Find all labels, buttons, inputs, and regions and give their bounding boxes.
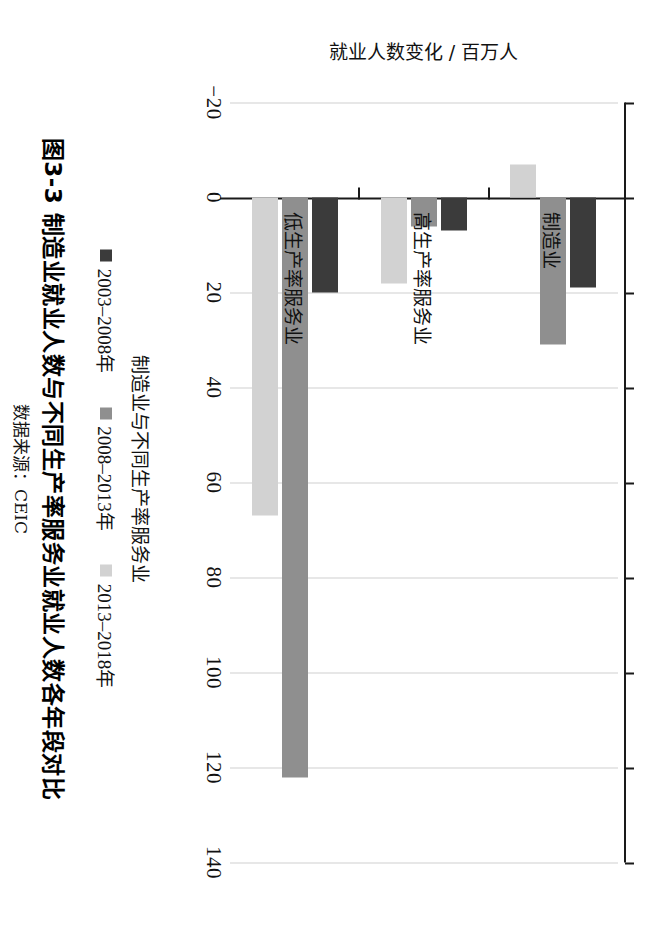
figure-source: 数据来源：CEIC	[10, 0, 35, 937]
category-tick	[358, 187, 360, 199]
value-tick-label: 120	[203, 732, 224, 802]
value-tick-label: 60	[203, 447, 224, 517]
legend: 2003–2008年2008–2013年2013–2018年	[93, 0, 120, 937]
value-axis-title: 就业人数变化 / 百万人	[230, 36, 618, 64]
category-label: 高生产率服务业	[410, 211, 437, 431]
legend-item[interactable]: 2003–2008年	[93, 249, 120, 373]
value-tick	[625, 292, 634, 294]
category-tick	[488, 187, 490, 199]
legend-item[interactable]: 2008–2013年	[93, 407, 120, 531]
figure-title: 图3-3 制造业就业人数与不同生产率服务业就业人数各年段对比	[38, 0, 72, 937]
bar	[252, 197, 278, 515]
gridline	[230, 862, 618, 863]
value-tick-label: −20	[203, 67, 224, 137]
category-label: 低生产率服务业	[281, 211, 308, 431]
value-tick-label: 0	[203, 162, 224, 232]
legend-label: 2003–2008年	[93, 268, 120, 373]
value-tick	[625, 767, 634, 769]
value-tick	[625, 387, 634, 389]
value-tick	[625, 102, 634, 104]
chart-figure: 就业人数变化 / 百万人 −20020406080100120140 制造业高生…	[0, 0, 660, 937]
legend-swatch-icon	[101, 564, 113, 576]
bar	[570, 197, 596, 287]
value-tick-label: 80	[203, 542, 224, 612]
value-tick-label: 100	[203, 637, 224, 707]
bar	[381, 197, 407, 283]
value-tick	[625, 672, 634, 674]
value-axis-title-text: 就业人数变化 / 百万人	[329, 37, 518, 64]
value-tick-label: 20	[203, 257, 224, 327]
value-tick	[625, 577, 634, 579]
value-tick-label: 40	[203, 352, 224, 422]
bar	[312, 197, 338, 292]
value-tick-label: 140	[203, 827, 224, 897]
gridline	[230, 102, 618, 103]
bar	[510, 164, 536, 197]
legend-label: 2008–2013年	[93, 426, 120, 531]
bar	[441, 197, 467, 230]
value-tick	[625, 862, 634, 864]
rotated-figure-wrapper: 就业人数变化 / 百万人 −20020406080100120140 制造业高生…	[0, 0, 660, 937]
category-axis-title: 制造业与不同生产率服务业	[128, 0, 155, 937]
legend-item[interactable]: 2013–2018年	[93, 564, 120, 688]
value-tick	[625, 197, 634, 199]
legend-swatch-icon	[101, 407, 113, 419]
legend-swatch-icon	[101, 249, 113, 261]
legend-label: 2013–2018年	[93, 583, 120, 688]
value-tick	[625, 482, 634, 484]
category-label: 制造业	[539, 211, 566, 431]
